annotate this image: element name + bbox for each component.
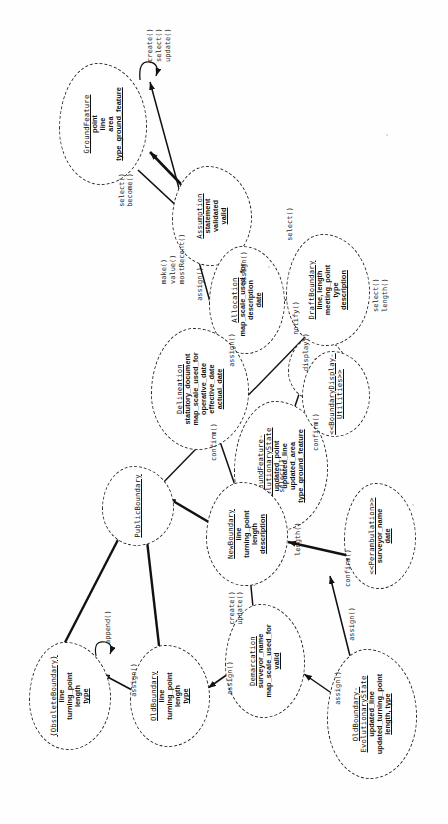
- message-label: create() update(): [228, 591, 244, 625]
- message-label: assign(): [196, 267, 204, 301]
- cloud-body: PublicBoundary: [134, 474, 143, 537]
- class-name: Assumption: [196, 193, 204, 238]
- link-newboundary-publicboundary: [168, 498, 212, 524]
- class-name: <<Perambulation>>: [368, 498, 376, 575]
- class-name: GroundFeature: [83, 87, 91, 161]
- class-name: Allocation: [231, 263, 239, 336]
- attribute: valid: [273, 624, 281, 697]
- attribute: actual_date: [216, 352, 224, 425]
- message-label: confirm(): [210, 423, 218, 461]
- attribute: valid: [220, 193, 228, 238]
- scan-speck: [268, 266, 270, 268]
- message-label: select(): [286, 207, 294, 241]
- class-name: {ObsoleteBoundary}: [50, 655, 58, 737]
- operation[interactable]: select(): [372, 278, 381, 312]
- message-label: assign(): [348, 607, 356, 641]
- scan-speck: [386, 134, 388, 136]
- attribute: type_ground_feature: [297, 428, 305, 505]
- attribute: length, type: [384, 674, 392, 754]
- attribute: description: [340, 261, 348, 320]
- cloud-body: DraftBoundary line, length meeting_point…: [308, 261, 349, 320]
- class-name: OldBoundary- EvolutionaryState: [352, 674, 368, 754]
- operation[interactable]: select(): [155, 28, 164, 62]
- operations-draftboundary: select() length(): [372, 278, 390, 312]
- class-name: Delineation: [176, 352, 184, 425]
- message-label: confirm(): [344, 549, 352, 587]
- cloud-body: OldBoundary- EvolutionaryState updated_l…: [352, 674, 392, 754]
- operation[interactable]: value(): [169, 233, 178, 284]
- message-label: assign(): [240, 251, 248, 285]
- object-obsoleteboundary[interactable]: {ObsoleteBoundary} line turning_point le…: [30, 643, 110, 749]
- message-label: confirm(): [312, 413, 320, 451]
- cloud-body: Delineation statutory_document map_scale…: [176, 352, 225, 425]
- attribute: date: [384, 498, 392, 575]
- class-name: Demarcation: [249, 624, 257, 697]
- operations-groundfeature: create() select() update(): [146, 28, 172, 62]
- message-label: select() become(): [118, 173, 134, 207]
- message-label: select(): [278, 459, 286, 493]
- operation[interactable]: mostRecent(): [178, 233, 187, 284]
- operations-newboundary: length(): [294, 522, 303, 556]
- object-groundfeature[interactable]: GroundFeature point line area type_groun…: [60, 64, 146, 184]
- class-name: <<BoundaryDisplay- Utilities>>: [328, 353, 344, 435]
- cloud-body: OldBoundary line turning_point length ty…: [150, 671, 191, 721]
- cloud-body: {ObsoleteBoundary} line turning_point le…: [50, 655, 91, 737]
- attribute: type: [182, 671, 190, 721]
- cloud-body: NewBoundary line turning_point length de…: [227, 509, 268, 559]
- scan-speck: [412, 504, 414, 506]
- cloud-body: GroundFeature point line area type_groun…: [83, 87, 124, 161]
- object-publicboundary[interactable]: PublicBoundary: [103, 467, 173, 545]
- object-oldboundary-evolutionarystate[interactable]: OldBoundary- EvolutionaryState updated_l…: [328, 650, 416, 778]
- message-label: notify(): [292, 301, 300, 335]
- attribute: date: [255, 263, 263, 336]
- diagram-canvas: GroundFeature point line area type_groun…: [0, 0, 448, 824]
- diagram-stage: GroundFeature point line area type_groun…: [0, 0, 448, 824]
- cloud-body: Demarcation surveyor_name map_scale_used…: [249, 624, 282, 697]
- cloud-body: Assumption statement validated valid: [196, 193, 229, 238]
- message-label: assign(): [228, 333, 236, 367]
- attribute: type_ground_feature: [115, 87, 123, 161]
- message-label: assign(): [130, 663, 138, 697]
- operation[interactable]: create(): [146, 28, 155, 62]
- operation[interactable]: update(): [164, 28, 173, 62]
- attribute: description: [259, 509, 267, 559]
- object-newboundary[interactable]: NewBoundary line turning_point length de…: [207, 483, 287, 585]
- class-name: NewBoundary: [227, 509, 235, 559]
- link-obes-demarcation: [304, 674, 330, 692]
- cloud-body: <<BoundaryDisplay- Utilities>>: [328, 353, 345, 435]
- link-oldboundary-publicboundary: [146, 532, 160, 654]
- class-name: DraftBoundary: [308, 261, 316, 320]
- object-perambulation[interactable]: <<Perambulation>> surveyor_name date: [345, 484, 415, 588]
- class-name: OldBoundary: [150, 671, 158, 721]
- operations-assumption: make() value() mostRecent(): [160, 233, 186, 284]
- operation[interactable]: length(): [294, 522, 303, 556]
- class-name: PublicBoundary: [134, 474, 142, 537]
- message-label: display(): [302, 333, 310, 371]
- attribute: type: [82, 655, 90, 737]
- operations-obsoleteboundary: append(): [104, 610, 113, 644]
- operation[interactable]: make(): [160, 233, 169, 284]
- operation[interactable]: append(): [104, 610, 113, 644]
- message-label: assign(): [226, 661, 234, 695]
- object-oldboundary[interactable]: OldBoundary line turning_point length ty…: [131, 646, 209, 746]
- cloud-body: <<Perambulation>> surveyor_name date: [368, 498, 393, 575]
- operation[interactable]: length(): [381, 278, 390, 312]
- message-label: assign(): [334, 671, 342, 705]
